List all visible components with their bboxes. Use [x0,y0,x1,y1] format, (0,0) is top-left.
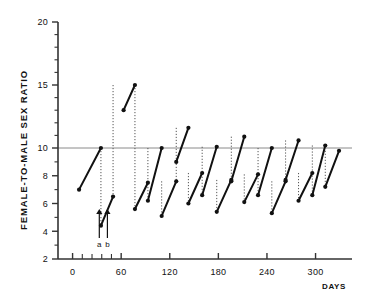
x-axis-title: DAYS [322,282,346,291]
data-point-marker [186,126,190,130]
data-point-marker [77,188,81,192]
data-point-marker [229,179,233,183]
y-tick-label: 10 [37,143,48,153]
data-point-marker [270,211,274,215]
sex-ratio-line-chart: 2468101520060120180240300 ab FEMALE-TO-M… [0,0,368,305]
data-point-marker [146,181,150,185]
data-point-marker [256,193,260,197]
data-point-marker [337,149,341,153]
x-tick-label: 120 [162,267,178,277]
x-tick-label: 300 [308,267,324,277]
data-point-marker [215,210,219,214]
data-point-marker [160,214,164,218]
data-point-marker [256,172,260,176]
data-point-marker [323,143,327,147]
data-point-marker [99,146,103,150]
x-tick-label: 60 [116,267,127,277]
y-tick-label: 2 [43,254,48,264]
y-tick-label: 20 [37,17,48,27]
y-axis-title: FEMALE-TO-MALE SEX RATIO [18,70,29,230]
data-point-marker [133,207,137,211]
data-point-marker [186,201,190,205]
y-tick-label: 6 [43,199,48,209]
data-point-marker [215,145,219,149]
data-point-marker [111,194,115,198]
data-point-marker [146,199,150,203]
data-point-marker [296,138,300,142]
data-point-marker [174,179,178,183]
data-point-marker [310,193,314,197]
data-point-marker [283,178,287,182]
data-point-marker [323,185,327,189]
data-point-marker [160,146,164,150]
data-point-marker [200,193,204,197]
data-point-marker [122,108,126,112]
y-tick-label: 15 [37,80,48,90]
x-tick-label: 240 [259,267,275,277]
data-point-marker [296,199,300,203]
data-point-marker [310,171,314,175]
data-point-marker [174,160,178,164]
data-point-marker [242,200,246,204]
data-point-marker [133,83,137,87]
data-point-marker [200,171,204,175]
arrow-a-label: a [97,240,102,249]
chart-root: 2468101520060120180240300 ab FEMALE-TO-M… [0,0,368,305]
data-point-marker [270,146,274,150]
x-tick-label: 180 [210,267,226,277]
x-tick-label: 0 [70,267,75,277]
y-tick-label: 4 [43,227,48,237]
arrow-b-label: b [105,240,110,249]
y-tick-label: 8 [43,171,48,181]
data-point-marker [242,135,246,139]
